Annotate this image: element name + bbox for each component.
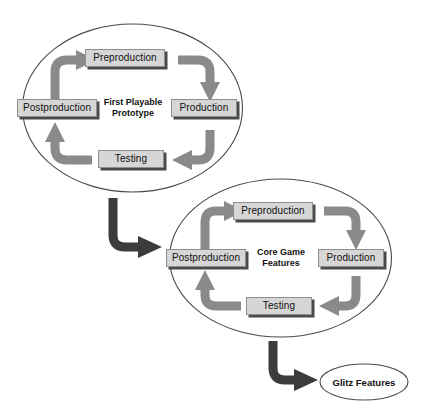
cycle-1-arrow-testing-to-postproduction (45, 122, 92, 160)
connector-prototype-to-core (113, 198, 162, 258)
cycle-1-arrow-preproduction-to-production (178, 60, 220, 102)
cycle-2-arrow-production-to-testing (319, 276, 356, 316)
cycle-first-playable-prototype (23, 24, 243, 192)
glitz-features-ellipse (320, 364, 408, 400)
diagram-canvas (0, 0, 425, 419)
cycle-core-game-features (170, 179, 392, 337)
cycle-2-arrow-preproduction-to-production (324, 211, 366, 250)
cycle-2-arrow-testing-to-postproduction (195, 270, 241, 306)
cycle-1-ellipse (23, 24, 243, 192)
connector-core-to-glitz (273, 341, 318, 391)
cycle-1-arrow-production-to-testing (172, 130, 210, 170)
cycle-2-ellipse (170, 179, 392, 337)
cycle-2-arrow-postproduction-to-preproduction (205, 201, 244, 254)
cycle-1-arrow-postproduction-to-preproduction (55, 50, 96, 106)
